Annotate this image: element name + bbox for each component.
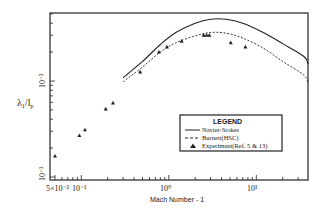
y-axis-title: λ1/lp — [17, 97, 33, 109]
y-axis-ticks — [50, 14, 55, 177]
x-tick-label-1e0: 10⁰ — [160, 184, 171, 193]
experiment-data-point — [207, 33, 211, 37]
chart: 5×10⁻² 10⁻¹ 10⁰ 10¹ Mach Number - 1 10⁻³… — [0, 0, 323, 211]
experiment-data-point — [104, 107, 108, 111]
svg-text:λ1/lp: λ1/lp — [17, 97, 33, 109]
x-axis-title: Mach Number - 1 — [150, 196, 204, 203]
experiment-data-point — [243, 45, 247, 49]
y-tick-label-1e-3: 10⁻³ — [38, 166, 47, 181]
y-tick-label-1e-2: 10⁻² — [38, 73, 47, 88]
experiment-data-point — [53, 154, 57, 158]
legend-label-navier-stokes: Navier-Stokes — [202, 126, 240, 133]
legend: LEGEND Navier-Stokes Burnett(HSC) Experi… — [180, 115, 282, 151]
x-tick-label-5e-2: 5×10⁻² — [46, 184, 70, 193]
legend-title: LEGEND — [213, 118, 242, 125]
x-tick-label-1e1: 10¹ — [247, 184, 258, 193]
legend-label-experiment: Experiment(Ref. 5 & 13) — [202, 142, 267, 150]
experiment-data-point — [83, 128, 87, 132]
burnett-curve — [123, 32, 308, 83]
legend-label-burnett: Burnett(HSC) — [202, 134, 238, 142]
plot-frame — [50, 13, 308, 180]
experiment-data-point — [77, 133, 81, 137]
x-axis-ticks — [55, 175, 298, 180]
experiment-data-point — [229, 41, 233, 45]
navier-stokes-curve — [123, 19, 308, 78]
x-tick-label-1e-1: 10⁻¹ — [72, 184, 87, 193]
experiment-data-point — [165, 45, 169, 49]
experiment-data-point — [111, 101, 115, 105]
